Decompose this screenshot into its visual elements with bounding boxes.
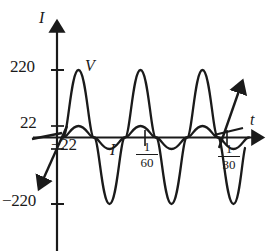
- horizontal-axis-label: t: [250, 112, 254, 128]
- voltage-curve-label: V: [85, 58, 95, 74]
- ytick-label-neg22: −22: [51, 136, 77, 153]
- fraction-numerator: 1: [218, 142, 240, 155]
- xtick-label-one-sixtieth: 1 60: [136, 140, 158, 169]
- xtick-label-one-thirtieth: 1 30: [218, 142, 240, 171]
- ytick-label-220: 220: [10, 58, 35, 75]
- plot-canvas: [0, 0, 273, 251]
- graph-figure: 220 22 −22 −220 I t V I 1 60 1 30: [0, 0, 273, 251]
- current-curve-label: I: [110, 142, 115, 158]
- ytick-label-22: 22: [20, 114, 36, 131]
- fraction-denominator: 60: [136, 156, 158, 169]
- vertical-axis-label: I: [39, 10, 44, 26]
- ytick-label-neg220: −220: [2, 192, 36, 209]
- fraction-numerator: 1: [136, 140, 158, 153]
- fraction-denominator: 30: [218, 158, 240, 171]
- up-right-arrow-icon: [219, 88, 240, 148]
- end-annotation-crossbar: [214, 128, 243, 135]
